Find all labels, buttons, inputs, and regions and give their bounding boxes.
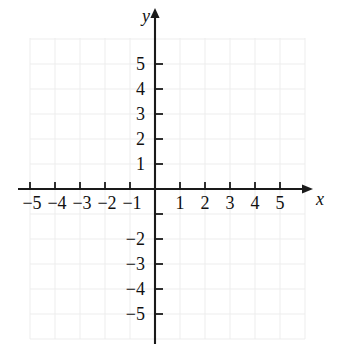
x-tick-label: 1 (176, 193, 185, 213)
x-tick-label: −2 (97, 193, 116, 213)
y-tick-label: 5 (136, 54, 145, 74)
x-tick-label: −5 (22, 193, 41, 213)
y-tick-label: 3 (136, 104, 145, 124)
figure-background (0, 0, 340, 346)
x-tick-label: 5 (276, 193, 285, 213)
coordinate-plane-svg: −5−4−3−2−112345 54321−2−3−4−5 x y (0, 0, 340, 346)
x-tick-label: −4 (47, 193, 66, 213)
y-tick-label: 1 (136, 154, 145, 174)
y-tick-label: 2 (136, 129, 145, 149)
y-tick-label: −5 (126, 304, 145, 324)
y-tick-label: 4 (136, 79, 145, 99)
y-tick-label: −2 (126, 229, 145, 249)
x-tick-label: 2 (201, 193, 210, 213)
x-tick-label: 4 (251, 193, 260, 213)
y-tick-label: −4 (126, 279, 145, 299)
x-tick-label: −3 (72, 193, 91, 213)
y-axis-label: y (140, 6, 150, 26)
x-axis-label: x (315, 189, 324, 209)
x-tick-label: −1 (122, 193, 141, 213)
x-tick-label: 3 (226, 193, 235, 213)
coordinate-plane-figure: −5−4−3−2−112345 54321−2−3−4−5 x y (0, 0, 340, 346)
y-tick-label: −3 (126, 254, 145, 274)
